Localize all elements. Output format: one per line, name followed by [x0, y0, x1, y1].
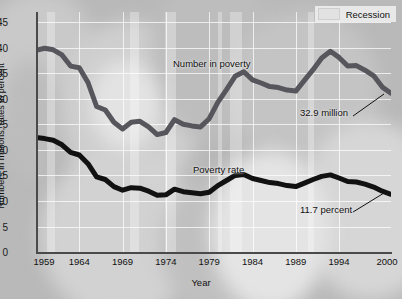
poverty-rate-label: Poverty rate	[193, 164, 244, 175]
legend: Recession	[315, 6, 396, 22]
x-tick-label: 1959	[33, 256, 54, 267]
x-tick-label: 1964	[69, 256, 90, 267]
y-axis-title: Numbers in millions, rates in percent	[0, 16, 6, 256]
y-axis-title-wrap: Numbers in millions, rates in percent	[0, 0, 10, 12]
leader-line-number	[353, 94, 384, 116]
x-tick-label: 1979	[199, 256, 220, 267]
x-tick-label: 1974	[155, 256, 176, 267]
legend-label-recession: Recession	[346, 9, 390, 20]
x-axis-line	[36, 252, 392, 254]
leader-line-rate	[353, 193, 384, 212]
number-in-poverty-label: Number in poverty	[173, 58, 251, 69]
x-tick-label: 2000	[376, 256, 397, 267]
y-axis-line	[36, 12, 38, 253]
plot-area	[36, 12, 391, 252]
x-axis-title: Year	[0, 277, 402, 288]
x-tick-label: 1969	[112, 256, 133, 267]
number-end-annotation: 32.9 million	[300, 107, 348, 118]
poverty-chart-figure: 45 40 35 30 25 20 15 10 5 0 Numbers in m…	[0, 0, 402, 299]
x-tick-label: 1989	[285, 256, 306, 267]
recession-swatch-icon	[318, 8, 340, 20]
rate-end-annotation: 11.7 percent	[300, 204, 352, 215]
x-tick-label: 1984	[242, 256, 263, 267]
leader-lines	[36, 12, 391, 252]
x-tick-label: 1994	[328, 256, 349, 267]
